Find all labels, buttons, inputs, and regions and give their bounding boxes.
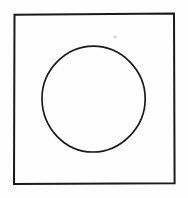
drawing-background bbox=[0, 0, 188, 198]
figure-canvas: Square with inscribed circle bbox=[0, 0, 188, 198]
line-drawing bbox=[0, 0, 188, 198]
